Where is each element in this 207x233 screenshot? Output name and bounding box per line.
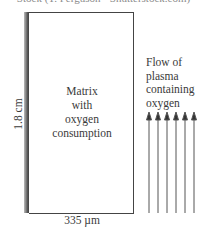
plasma-flow-arrows [0,0,207,233]
arrow-up-icon [147,112,152,213]
arrow-up-icon [165,112,170,213]
arrow-up-icon [174,112,179,213]
arrow-up-icon [183,112,188,213]
arrow-up-icon [192,112,197,213]
arrow-up-icon [156,112,161,213]
